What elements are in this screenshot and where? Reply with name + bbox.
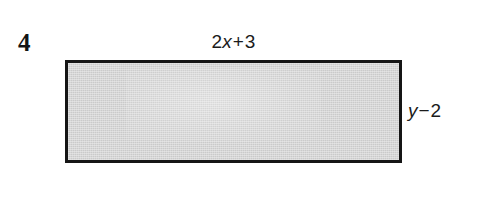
height-operator: − xyxy=(418,100,431,121)
height-constant: 2 xyxy=(431,100,442,121)
height-dimension-label: y−2 xyxy=(408,100,441,122)
rectangle-shape xyxy=(65,60,402,163)
width-constant: 3 xyxy=(245,31,256,52)
width-operator: + xyxy=(232,31,245,52)
figure-canvas: 4 2x+3 y−2 xyxy=(0,0,479,203)
rectangle-figure xyxy=(65,60,402,163)
height-variable: y xyxy=(408,100,418,121)
width-coefficient: 2 xyxy=(212,31,223,52)
width-variable: x xyxy=(222,31,232,52)
width-dimension-label: 2x+3 xyxy=(65,31,402,53)
problem-number: 4 xyxy=(18,30,31,56)
